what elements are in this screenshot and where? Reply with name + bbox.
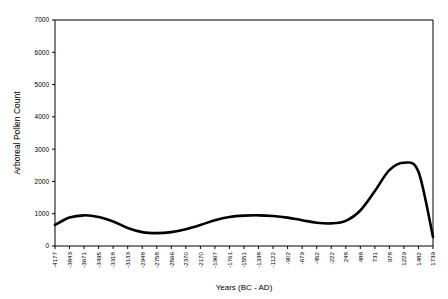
- x-tick-label: -3318: [109, 251, 116, 267]
- x-tick-label: -679: [298, 251, 305, 264]
- y-tick-label: 1000: [35, 210, 50, 217]
- pollen-count-line-chart: 01000200030004000500060007000 Arboreal P…: [0, 0, 448, 299]
- x-tick-label: -2370: [182, 251, 189, 267]
- x-tick-label: 488: [357, 251, 364, 262]
- x-tick-label: 248: [342, 251, 349, 262]
- y-tick-label: 5000: [35, 81, 50, 88]
- x-tick-label: -1761: [226, 251, 233, 267]
- x-tick-label: -3671: [80, 251, 87, 267]
- data-series-line: [55, 162, 433, 237]
- x-tick-label: -1551: [240, 251, 247, 267]
- chart-container: 01000200030004000500060007000 Arboreal P…: [0, 0, 448, 299]
- x-axis-title: Years (BC - AD): [216, 283, 273, 292]
- x-tick-label: -1967: [211, 251, 218, 267]
- x-tick-label: -902: [284, 251, 291, 264]
- x-tick-label: 731: [371, 251, 378, 262]
- x-tick-label: -3843: [66, 251, 73, 267]
- x-tick-label: -452: [313, 251, 320, 264]
- x-tick-label: -1122: [269, 251, 276, 267]
- y-tick-label: 7000: [35, 16, 50, 23]
- x-axis-ticks: -4177-3843-3671-3495-3318-3133-2948-2758…: [51, 246, 436, 268]
- x-tick-label: 1739: [429, 251, 436, 265]
- x-tick-label: -2758: [153, 251, 160, 267]
- x-tick-label: -3495: [95, 251, 102, 267]
- plot-frame: [55, 20, 433, 246]
- x-tick-label: 978: [386, 251, 393, 262]
- x-tick-label: -1338: [255, 251, 262, 267]
- x-tick-label: -2948: [139, 251, 146, 267]
- x-tick-label: -222: [328, 251, 335, 264]
- y-axis-ticks: 01000200030004000500060007000: [35, 16, 55, 249]
- x-tick-label: -2170: [197, 251, 204, 267]
- y-tick-label: 0: [45, 242, 49, 249]
- x-tick-label: -4177: [51, 251, 58, 267]
- y-tick-label: 4000: [35, 113, 50, 120]
- x-tick-label: -2566: [168, 251, 175, 267]
- x-tick-label: 1229: [400, 251, 407, 265]
- y-axis-title: Arboreal Pollen Count: [12, 91, 22, 175]
- y-tick-label: 3000: [35, 146, 50, 153]
- y-tick-label: 2000: [35, 178, 50, 185]
- x-tick-label: -3133: [124, 251, 131, 267]
- y-tick-label: 6000: [35, 49, 50, 56]
- x-tick-label: 1482: [415, 251, 422, 265]
